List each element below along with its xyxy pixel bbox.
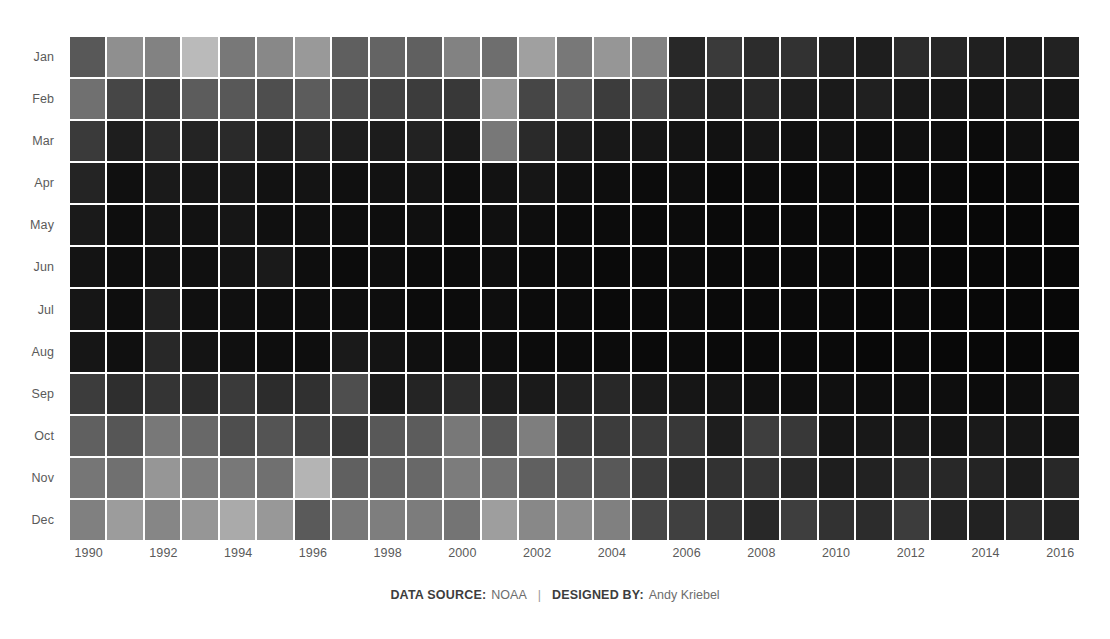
heatmap-cell	[70, 500, 105, 540]
year-label-2006: 2006	[673, 546, 701, 560]
year-label-2010: 2010	[822, 546, 850, 560]
heatmap-cell	[407, 458, 442, 498]
heatmap-cell	[407, 121, 442, 161]
heatmap-cell	[145, 205, 180, 245]
heatmap-cell	[370, 374, 405, 414]
heatmap-cell	[145, 374, 180, 414]
heatmap-cell	[931, 121, 966, 161]
heatmap-cell	[707, 500, 742, 540]
heatmap-cell	[781, 121, 816, 161]
heatmap-cell	[632, 416, 667, 456]
heatmap-cell	[257, 416, 292, 456]
heatmap-cell	[744, 79, 779, 119]
year-label-2014: 2014	[971, 546, 999, 560]
heatmap-cell	[894, 332, 929, 372]
heatmap-cell	[332, 500, 367, 540]
heatmap-plot-area	[70, 37, 1079, 540]
year-label-2002: 2002	[523, 546, 551, 560]
heatmap-cell	[781, 37, 816, 77]
heatmap-cell	[931, 374, 966, 414]
heatmap-cell	[1044, 332, 1079, 372]
heatmap-cell	[894, 416, 929, 456]
heatmap-cell	[781, 500, 816, 540]
heatmap-cell	[856, 416, 891, 456]
heatmap-cell	[819, 374, 854, 414]
heatmap-cell	[444, 374, 479, 414]
heatmap-cell	[669, 163, 704, 203]
heatmap-cell	[819, 458, 854, 498]
heatmap-cell	[632, 205, 667, 245]
heatmap-cell	[894, 205, 929, 245]
heatmap-cell	[444, 247, 479, 287]
heatmap-cell	[482, 500, 517, 540]
month-label-nov: Nov	[0, 458, 62, 498]
heatmap-cell	[107, 458, 142, 498]
heatmap-cell	[220, 247, 255, 287]
heatmap-cell	[370, 332, 405, 372]
year-label-1996: 1996	[299, 546, 327, 560]
heatmap-cell	[1006, 205, 1041, 245]
heatmap-cell	[744, 332, 779, 372]
heatmap-cell	[444, 37, 479, 77]
heatmap-cell	[482, 121, 517, 161]
heatmap-cell	[1006, 374, 1041, 414]
heatmap-cell	[1044, 163, 1079, 203]
year-axis: 1990199219941996199820002002200420062008…	[70, 546, 1079, 570]
heatmap-cell	[819, 205, 854, 245]
heatmap-cell	[257, 332, 292, 372]
heatmap-cell	[70, 163, 105, 203]
heatmap-cell	[594, 163, 629, 203]
heatmap-cell	[819, 500, 854, 540]
heatmap-cell	[594, 416, 629, 456]
heatmap-cell	[744, 458, 779, 498]
heatmap-cell	[519, 163, 554, 203]
heatmap-cell	[519, 458, 554, 498]
year-label-1992: 1992	[149, 546, 177, 560]
heatmap-cell	[707, 416, 742, 456]
heatmap-cell	[295, 500, 330, 540]
heatmap-cell	[819, 416, 854, 456]
heatmap-cell	[182, 121, 217, 161]
heatmap-cell	[669, 332, 704, 372]
heatmap-cell	[632, 500, 667, 540]
heatmap-cell	[70, 289, 105, 329]
heatmap-cell	[407, 332, 442, 372]
heatmap-cell	[744, 247, 779, 287]
heatmap-cell	[969, 163, 1004, 203]
heatmap-cell	[257, 374, 292, 414]
month-label-oct: Oct	[0, 416, 62, 456]
heatmap-cell	[182, 458, 217, 498]
month-label-jul: Jul	[0, 289, 62, 329]
month-label-apr: Apr	[0, 163, 62, 203]
heatmap-cell	[594, 332, 629, 372]
heatmap-cell	[220, 79, 255, 119]
heatmap-cell	[407, 37, 442, 77]
heatmap-cell	[1006, 79, 1041, 119]
heatmap-cell	[332, 289, 367, 329]
heatmap-cell	[707, 205, 742, 245]
heatmap-cell	[220, 458, 255, 498]
heatmap-cell	[781, 416, 816, 456]
heatmap-cell	[220, 163, 255, 203]
heatmap-cell	[182, 374, 217, 414]
heatmap-cell	[669, 247, 704, 287]
heatmap-cell	[295, 79, 330, 119]
heatmap-cell	[894, 163, 929, 203]
heatmap-cell	[182, 37, 217, 77]
heatmap-visualization: JanFebMarAprMayJunJulAugSepOctNovDec 199…	[0, 0, 1110, 639]
heatmap-cell	[182, 163, 217, 203]
heatmap-cell	[632, 332, 667, 372]
heatmap-cell	[894, 121, 929, 161]
heatmap-cell	[969, 79, 1004, 119]
heatmap-cell	[295, 458, 330, 498]
heatmap-cell	[969, 121, 1004, 161]
heatmap-cell	[781, 79, 816, 119]
heatmap-cell	[669, 37, 704, 77]
heatmap-cell	[1044, 458, 1079, 498]
heatmap-cell	[557, 500, 592, 540]
heatmap-cell	[70, 247, 105, 287]
heatmap-cell	[182, 289, 217, 329]
heatmap-cell	[107, 163, 142, 203]
heatmap-cell	[557, 289, 592, 329]
heatmap-cell	[257, 289, 292, 329]
